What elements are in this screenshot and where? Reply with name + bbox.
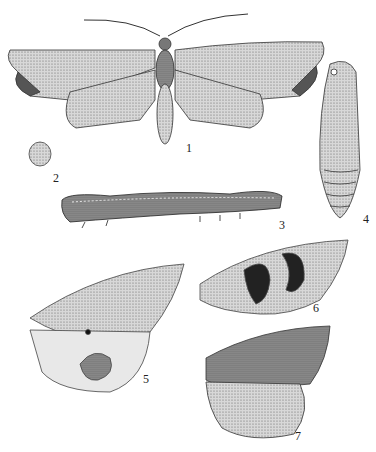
figure-4-label: 4 — [363, 212, 369, 226]
figure-6-label: 6 — [313, 301, 319, 315]
figure-6-wing-variant — [200, 240, 348, 314]
illustration-plate: 1 2 3 4 5 6 7 — [0, 0, 376, 452]
figure-5-label: 5 — [143, 372, 149, 386]
figure-5-wing-variant — [30, 264, 184, 392]
moth-life-stages-drawing: 1 2 3 4 5 6 7 — [0, 0, 376, 452]
figure-4-pupa — [320, 61, 360, 218]
figure-3-label: 3 — [279, 218, 285, 232]
figure-1-label: 1 — [186, 141, 192, 155]
figure-2-egg — [29, 142, 51, 166]
figure-7-wing-variant — [206, 326, 330, 438]
figure-1-adult-moth — [8, 14, 324, 144]
figure-2-label: 2 — [53, 171, 59, 185]
figure-7-label: 7 — [295, 429, 301, 443]
figure-3-larva — [62, 191, 282, 228]
